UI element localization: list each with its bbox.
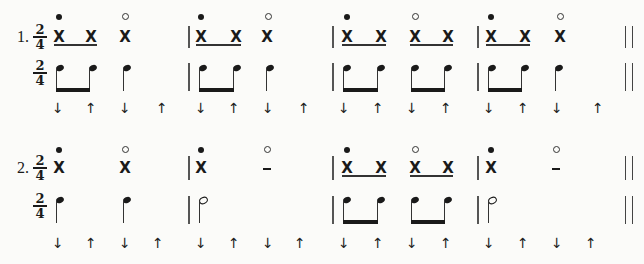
strum-up-arrow-icon: ↑ <box>440 236 450 250</box>
barline <box>477 63 479 91</box>
strum-up-arrow-icon: ↑ <box>372 236 382 250</box>
note-stem <box>56 201 57 223</box>
double-barline <box>625 26 633 48</box>
strum-down-arrow-icon: ↓ <box>195 236 205 250</box>
hit-x: X <box>339 29 355 45</box>
strum-up-arrow-icon: ↑ <box>228 236 238 250</box>
strum-down-arrow-icon: ↓ <box>551 236 561 250</box>
hit-x: X <box>339 160 355 176</box>
strum-up-arrow-icon: ↑ <box>517 236 527 250</box>
time-signature: 2 4 <box>33 155 47 181</box>
barline <box>332 196 334 224</box>
strum-up-arrow-icon: ↑ <box>585 236 595 250</box>
strum-down-arrow-icon: ↓ <box>406 236 416 250</box>
note-stem <box>123 69 124 91</box>
exercise-number: 2. <box>17 159 29 177</box>
accent-filled-icon <box>198 14 204 20</box>
strum-up-arrow-icon: ↑ <box>440 101 450 115</box>
hit-x: X <box>83 29 99 45</box>
strum-down-arrow-icon: ↓ <box>338 236 348 250</box>
hit-x: X <box>440 160 456 176</box>
hit-x: X <box>51 29 67 45</box>
barline <box>332 26 334 48</box>
accent-filled-icon <box>344 147 350 153</box>
strum-down-arrow-icon: ↓ <box>119 236 129 250</box>
time-signature-notation: 2 4 <box>33 193 47 219</box>
strum-down-arrow-icon: ↓ <box>52 236 62 250</box>
beam <box>488 88 522 92</box>
strum-up-arrow-icon: ↑ <box>228 101 238 115</box>
accent-filled-icon <box>56 14 62 20</box>
hit-x: X <box>193 160 209 176</box>
barline <box>332 63 334 91</box>
strum-up-arrow-icon: ↑ <box>85 101 95 115</box>
accent-filled-icon <box>488 147 494 153</box>
hit-x: X <box>517 29 533 45</box>
barline <box>188 26 190 48</box>
time-signature: 2 4 <box>33 24 47 50</box>
hit-x: X <box>407 160 423 176</box>
beam <box>411 88 445 92</box>
hit-x: X <box>483 160 499 176</box>
strum-down-arrow-icon: ↓ <box>262 101 272 115</box>
hit-x: X <box>117 160 133 176</box>
accent-filled-icon <box>56 147 62 153</box>
strum-up-arrow-icon: ↑ <box>85 236 95 250</box>
accent-open-icon <box>557 13 564 20</box>
note-stem <box>266 69 267 91</box>
eighth-underline <box>54 44 97 46</box>
note-stem <box>199 201 200 223</box>
beam <box>56 88 90 92</box>
eighth-underline <box>410 175 453 177</box>
eighth-underline <box>410 44 453 46</box>
hit-x: X <box>51 160 67 176</box>
barline <box>477 156 479 180</box>
hit-x: X <box>440 29 456 45</box>
beam <box>343 220 378 224</box>
barline <box>188 63 190 91</box>
strum-down-arrow-icon: ↓ <box>483 236 493 250</box>
accent-filled-icon <box>344 14 350 20</box>
sustain-dash <box>263 168 271 170</box>
accent-open-icon <box>265 13 272 20</box>
beam <box>411 220 445 224</box>
strum-up-arrow-icon: ↑ <box>592 101 602 115</box>
strum-down-arrow-icon: ↓ <box>119 101 129 115</box>
time-signature-notation: 2 4 <box>33 60 47 86</box>
accent-open-icon <box>553 146 560 153</box>
strum-down-arrow-icon: ↓ <box>406 101 416 115</box>
strum-up-arrow-icon: ↑ <box>294 236 304 250</box>
strum-down-arrow-icon: ↓ <box>262 236 272 250</box>
accent-open-icon <box>412 13 419 20</box>
strum-up-arrow-icon: ↑ <box>372 101 382 115</box>
beam <box>199 88 234 92</box>
note-stem <box>123 201 124 223</box>
accent-open-icon <box>122 146 129 153</box>
strum-down-arrow-icon: ↓ <box>195 101 205 115</box>
accent-open-icon <box>412 146 419 153</box>
hit-x: X <box>407 29 423 45</box>
strum-down-arrow-icon: ↓ <box>483 101 493 115</box>
strum-up-arrow-icon: ↑ <box>517 101 527 115</box>
exercise-number: 1. <box>17 28 29 46</box>
strum-up-arrow-icon: ↑ <box>156 101 166 115</box>
accent-filled-icon <box>488 14 494 20</box>
accent-open-icon <box>264 146 271 153</box>
hit-x: X <box>552 29 568 45</box>
hit-x: X <box>373 29 389 45</box>
sustain-dash <box>552 168 560 170</box>
hit-x: X <box>373 160 389 176</box>
hit-x: X <box>228 29 244 45</box>
note-stem <box>488 201 489 223</box>
eighth-underline <box>196 44 241 46</box>
eighth-underline <box>342 44 386 46</box>
barline <box>477 196 479 224</box>
barline <box>188 156 190 180</box>
eighth-underline <box>342 175 386 177</box>
hit-x: X <box>483 29 499 45</box>
hit-x: X <box>259 29 275 45</box>
strum-up-arrow-icon: ↑ <box>298 101 308 115</box>
accent-open-icon <box>122 13 129 20</box>
note-stem <box>555 69 556 91</box>
barline <box>477 26 479 48</box>
